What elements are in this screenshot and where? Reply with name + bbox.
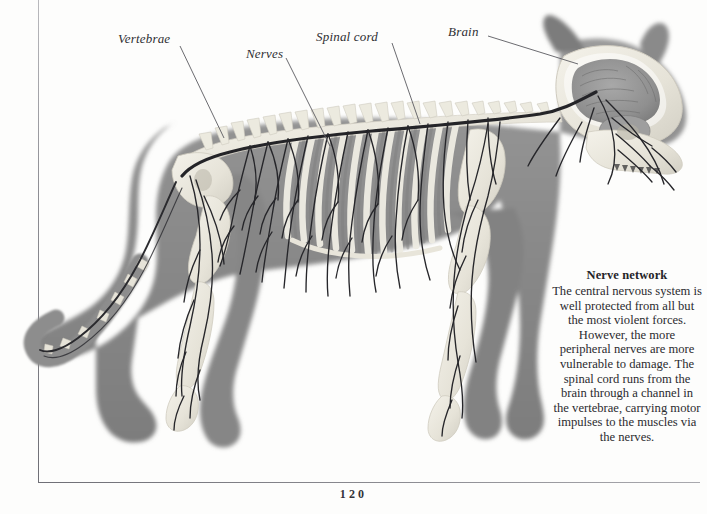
label-nerves: Nerves (246, 46, 283, 62)
cat-skull (556, 46, 682, 175)
label-spinal-cord: Spinal cord (316, 29, 378, 45)
label-vertebrae: Vertebrae (118, 31, 170, 47)
book-page: Vertebrae Nerves Spinal cord Brain Nerve… (0, 0, 707, 514)
caption-body: The central nervous system is well prote… (552, 284, 702, 445)
page-number: 120 (0, 487, 707, 502)
label-brain: Brain (448, 24, 479, 40)
caption-block: Nerve network The central nervous system… (552, 268, 702, 445)
caption-heading: Nerve network (552, 268, 702, 283)
leader-vertebrae (180, 46, 224, 138)
